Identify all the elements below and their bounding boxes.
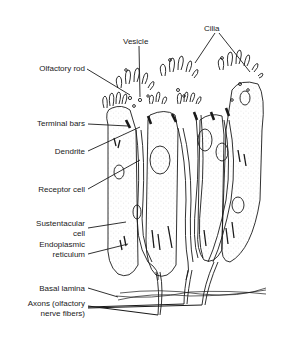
label-endoplasmic-reticulum: Endoplasmic reticulum	[39, 240, 85, 259]
label-axons-line2: nerve fibers)	[28, 309, 85, 319]
label-cilia: Cilia	[204, 24, 220, 34]
label-receptor-cell: Receptor cell	[38, 185, 85, 195]
label-sustentacular-line1: Sustentacular	[36, 219, 85, 229]
label-axons: Axons (olfactory nerve fibers)	[28, 299, 85, 318]
label-axons-line1: Axons (olfactory	[28, 299, 85, 309]
label-dendrite: Dendrite	[55, 147, 85, 157]
label-sustentacular-line2: cell	[36, 229, 85, 239]
label-basal-lamina: Basal lamina	[39, 284, 85, 294]
label-sustentacular-cell: Sustentacular cell	[36, 219, 85, 238]
label-endoplasmic-line1: Endoplasmic	[39, 240, 85, 250]
basal-lamina	[116, 288, 266, 300]
label-vesicle: Vesicle	[123, 37, 148, 47]
label-terminal-bars: Terminal bars	[37, 119, 85, 129]
label-endoplasmic-line2: reticulum	[39, 250, 85, 260]
label-olfactory-rod: Olfactory rod	[39, 64, 85, 74]
olfactory-epithelium-diagram: Cilia Vesicle Olfactory rod Terminal bar…	[0, 0, 284, 337]
